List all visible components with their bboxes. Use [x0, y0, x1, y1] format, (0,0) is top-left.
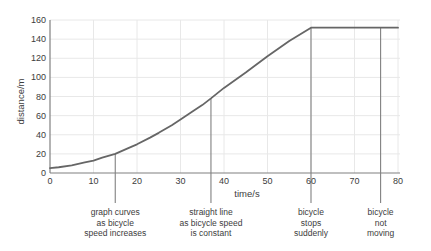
annotation-line: suddenly [294, 228, 328, 239]
annotation-stop-point: bicyclestopssuddenly [294, 207, 328, 239]
annotation-line: straight line [180, 207, 243, 218]
annotation-line: moving [367, 228, 394, 239]
y-tick-label: 0 [14, 169, 46, 178]
annotation-line: as bicycle [84, 218, 146, 229]
annotation-line: stops [294, 218, 328, 229]
x-tick-label: 20 [132, 177, 142, 186]
gridlines [50, 20, 400, 173]
annotation-stationary-region: bicyclenotmoving [367, 207, 394, 239]
x-tick-label: 50 [262, 177, 272, 186]
annotation-line: not [367, 218, 394, 229]
x-tick-label: 40 [219, 177, 229, 186]
annotation-line: bicycle [367, 207, 394, 218]
annotation-curve-region: graph curvesas bicyclespeed increases [84, 207, 146, 239]
annotation-line: graph curves [84, 207, 146, 218]
x-axis-title: time/s [225, 188, 269, 199]
x-tick-label: 80 [393, 177, 403, 186]
x-tick-label: 10 [88, 177, 98, 186]
annotation-line: as bicycle speed [180, 218, 243, 229]
annotation-line: speed increases [84, 228, 146, 239]
y-axis-title: distance/m [15, 62, 26, 142]
y-tick-label: 20 [14, 149, 46, 158]
annotation-line: bicycle [294, 207, 328, 218]
y-tick-label: 160 [14, 16, 46, 25]
x-tick-label: 30 [175, 177, 185, 186]
annotation-line: is constant [180, 228, 243, 239]
annotation-straight-region: straight lineas bicycle speedis constant [180, 207, 243, 239]
distance-time-graph-figure: 020406080100120140160 01020304050607080 … [0, 0, 431, 251]
x-tick-label: 70 [349, 177, 359, 186]
y-tick-label: 140 [14, 35, 46, 44]
x-tick-label: 60 [306, 177, 316, 186]
x-tick-label: 0 [47, 177, 52, 186]
